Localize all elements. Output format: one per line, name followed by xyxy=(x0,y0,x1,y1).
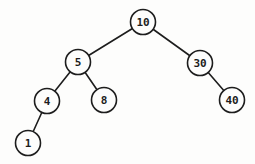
tree-node-4: 4 xyxy=(35,89,60,114)
tree-node-label-30: 30 xyxy=(193,57,206,70)
tree-node-30: 30 xyxy=(188,51,213,76)
tree-edges xyxy=(28,22,232,143)
tree-node-label-40: 40 xyxy=(225,94,238,107)
tree-node-label-1: 1 xyxy=(25,137,32,150)
tree-node-label-5: 5 xyxy=(75,56,82,69)
tree-node-1: 1 xyxy=(16,131,41,156)
tree-node-10: 10 xyxy=(131,10,156,35)
tree-node-5: 5 xyxy=(66,50,91,75)
tree-nodes: 1053048401 xyxy=(16,10,245,156)
tree-node-label-10: 10 xyxy=(136,16,149,29)
tree-node-40: 40 xyxy=(220,88,245,113)
tree-node-label-8: 8 xyxy=(101,94,108,107)
tree-diagram: 1053048401 xyxy=(0,0,255,164)
binary-tree-figure: 1053048401 xyxy=(0,0,255,164)
tree-node-label-4: 4 xyxy=(44,95,51,108)
tree-node-8: 8 xyxy=(92,88,117,113)
